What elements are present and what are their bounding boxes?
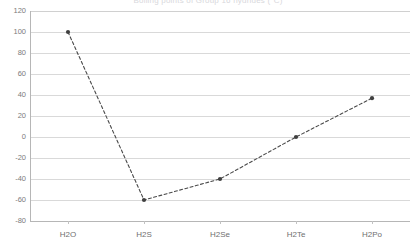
data-point-h2o [66, 30, 70, 34]
data-point-h2se [218, 177, 222, 181]
data-point-h2s [142, 198, 146, 202]
data-point-h2po [370, 96, 374, 100]
series-line-boiling-point [68, 32, 372, 200]
data-series-layer [0, 0, 416, 249]
data-point-h2te [294, 135, 298, 139]
series-markers [66, 30, 374, 202]
line-chart: Boiling points of Group 16 hydrides (°C)… [0, 0, 416, 249]
